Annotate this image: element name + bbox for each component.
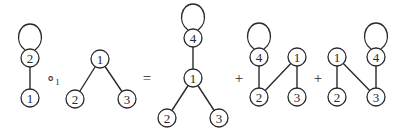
node-label: 2 bbox=[164, 111, 171, 126]
node-label: 3 bbox=[124, 92, 131, 107]
node-label: 4 bbox=[373, 50, 380, 65]
node-1: 1 bbox=[328, 48, 346, 66]
node-label: 1 bbox=[190, 71, 197, 86]
node-2: 2 bbox=[66, 90, 84, 108]
node-4: 4 bbox=[184, 29, 202, 47]
node-4: 4 bbox=[250, 48, 268, 66]
node-2: 2 bbox=[21, 49, 39, 67]
node-1: 1 bbox=[21, 89, 39, 107]
node-4: 4 bbox=[367, 48, 385, 66]
node-label: 3 bbox=[294, 90, 301, 105]
node-3: 3 bbox=[367, 88, 385, 106]
node-label: 2 bbox=[334, 90, 341, 105]
node-label: 4 bbox=[190, 31, 197, 46]
operator-symbol: = bbox=[143, 70, 151, 86]
node-1: 1 bbox=[288, 48, 306, 66]
node-1: 1 bbox=[184, 69, 202, 87]
node-3: 3 bbox=[288, 88, 306, 106]
operator-symbol: + bbox=[314, 70, 322, 86]
graph-g4: 4213 bbox=[248, 23, 306, 106]
node-2: 2 bbox=[328, 88, 346, 106]
self-loop bbox=[248, 23, 271, 49]
graph-g2: 123 bbox=[66, 50, 136, 108]
node-label: 3 bbox=[373, 90, 380, 105]
self-loop bbox=[365, 23, 388, 49]
node-1: 1 bbox=[91, 50, 109, 68]
node-2: 2 bbox=[250, 88, 268, 106]
node-label: 1 bbox=[294, 50, 301, 65]
self-loop bbox=[182, 4, 205, 30]
graph-g3: 4123 bbox=[158, 4, 228, 127]
self-loop bbox=[19, 24, 42, 50]
node-label: 2 bbox=[72, 92, 79, 107]
node-label: 1 bbox=[27, 91, 34, 106]
node-label: 1 bbox=[97, 52, 104, 67]
node-label: 2 bbox=[27, 51, 34, 66]
graph-g1: 21 bbox=[19, 24, 42, 107]
node-label: 4 bbox=[256, 50, 263, 65]
node-2: 2 bbox=[158, 109, 176, 127]
graph-g5: 1234 bbox=[328, 23, 387, 106]
operator-symbol: ∘1 bbox=[46, 70, 60, 87]
node-3: 3 bbox=[210, 109, 228, 127]
graph-composition-diagram: 21123412342131234∘1=++ bbox=[0, 0, 405, 133]
node-label: 2 bbox=[256, 90, 263, 105]
node-label: 3 bbox=[216, 111, 223, 126]
operator-symbol: + bbox=[235, 70, 243, 86]
node-label: 1 bbox=[334, 50, 341, 65]
node-3: 3 bbox=[118, 90, 136, 108]
